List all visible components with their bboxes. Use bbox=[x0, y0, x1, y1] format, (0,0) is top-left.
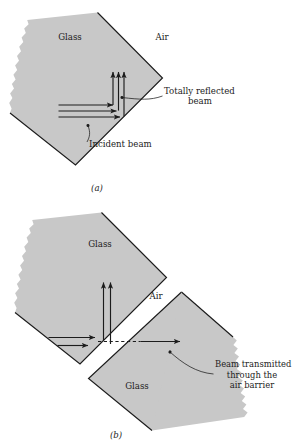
panel-a-reflected-label-line1: Totally reflected bbox=[164, 86, 235, 96]
panel-b: Glass Air Glass Beam transmitted through… bbox=[14, 213, 292, 441]
panel-a-glass-label: Glass bbox=[58, 32, 82, 42]
figure-container: Glass Air Totally reflected beam Inciden… bbox=[0, 0, 292, 443]
panel-b-lower-glass-label: Glass bbox=[125, 381, 149, 391]
panel-b-transmitted-label-line3: air barrier bbox=[230, 380, 274, 390]
panel-a-air-label: Air bbox=[154, 32, 169, 42]
panel-a-reflected-label-line2: beam bbox=[188, 96, 212, 106]
physics-diagram: Glass Air Totally reflected beam Inciden… bbox=[0, 0, 292, 443]
panel-b-air-label: Air bbox=[148, 291, 163, 301]
panel-b-transmitted-label-line1: Beam transmitted bbox=[215, 359, 292, 369]
panel-a-incident-label: Incident beam bbox=[89, 139, 152, 149]
panel-b-transmitted-label-line2: through the bbox=[227, 370, 277, 380]
panel-a: Glass Air Totally reflected beam Inciden… bbox=[9, 13, 235, 194]
panel-b-caption: (b) bbox=[110, 430, 122, 440]
panel-a-caption: (a) bbox=[91, 183, 103, 193]
panel-b-upper-glass-label: Glass bbox=[88, 239, 112, 249]
